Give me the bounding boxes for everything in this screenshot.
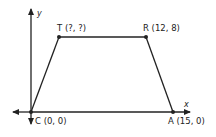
y-axis-label: y xyxy=(36,9,42,18)
point-c-label: C (0, 0) xyxy=(35,116,67,126)
point-a xyxy=(171,110,175,114)
coordinate-diagram: x y T (?, ?) R (12, 8) C (0, 0) A (15, 0… xyxy=(0,0,216,137)
point-a-label: A (15, 0) xyxy=(168,116,205,126)
point-c xyxy=(29,110,33,114)
point-t-label: T (?, ?) xyxy=(56,23,86,33)
point-r-label: R (12, 8) xyxy=(143,23,180,33)
trapezoid-shape xyxy=(31,37,173,112)
point-r xyxy=(144,35,148,39)
point-t xyxy=(57,35,61,39)
x-axis-label: x xyxy=(183,100,189,109)
